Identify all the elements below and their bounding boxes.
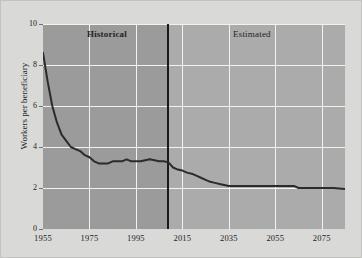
x-tick-label-2075: 2075 [302, 233, 342, 243]
x-tick-label-1995: 1995 [116, 233, 156, 243]
y-axis-title: Workers per beneficiary [19, 31, 29, 181]
x-tick-label-1955: 1955 [23, 233, 63, 243]
annotation-historical: Historical [87, 29, 127, 39]
x-tick-label-2035: 2035 [209, 233, 249, 243]
y-tick-mark-6 [39, 106, 43, 107]
annotation-estimated: Estimated [233, 29, 271, 39]
plot-area [43, 24, 345, 229]
x-tick-label-2015: 2015 [162, 233, 202, 243]
chart-figure: Historical Estimated 0246810 19551975199… [0, 0, 362, 258]
y-tick-mark-4 [39, 147, 43, 148]
y-tick-mark-2 [39, 188, 43, 189]
x-tick-label-2055: 2055 [255, 233, 295, 243]
y-tick-mark-10 [39, 24, 43, 25]
y-tick-label-2: 2 [11, 184, 37, 192]
x-tick-label-1975: 1975 [69, 233, 109, 243]
y-tick-mark-0 [39, 229, 43, 230]
y-tick-label-0: 0 [11, 225, 37, 233]
y-tick-label-10: 10 [11, 20, 37, 28]
series-line-workers-per-beneficiary [43, 24, 345, 229]
y-tick-mark-8 [39, 65, 43, 66]
